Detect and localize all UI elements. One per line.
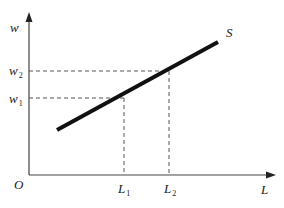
- x-axis-arrow-icon: [266, 172, 276, 179]
- y-axis-label: w: [10, 21, 19, 34]
- supply-curve: [57, 42, 218, 130]
- w1-label: w1: [9, 92, 23, 108]
- w2-label: w2: [9, 64, 23, 80]
- diagram-canvas: [0, 0, 284, 208]
- origin-label: O: [14, 178, 23, 191]
- l2-label: L2: [164, 182, 176, 198]
- curve-label-s: S: [226, 26, 233, 39]
- x-axis-label: L: [261, 183, 268, 196]
- l1-label: L1: [118, 182, 130, 198]
- y-axis-arrow-icon: [26, 12, 33, 22]
